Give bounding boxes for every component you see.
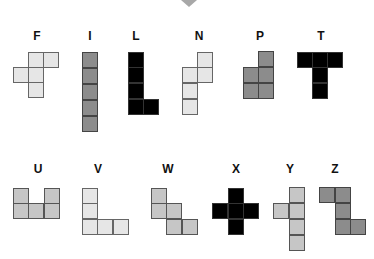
pentomino-cell (28, 203, 44, 219)
piece-label-l: L (132, 30, 139, 42)
pentomino-cell (228, 203, 244, 219)
pentomino-cell (113, 219, 129, 235)
pentomino-cell (228, 188, 244, 204)
pentomino-cell (82, 203, 98, 219)
pentomino-cell (28, 82, 44, 98)
pentomino-cell (243, 83, 259, 99)
pentomino-cell (182, 67, 198, 83)
piece-label-i: I (88, 30, 91, 42)
pentomino-cell (327, 52, 343, 68)
piece-label-f: F (33, 30, 40, 42)
piece-label-p: P (256, 30, 264, 42)
pentomino-cell (128, 52, 144, 68)
pentomino-cell (182, 219, 198, 235)
pentomino-cell (82, 188, 98, 204)
pentomino-cell (28, 67, 44, 83)
pentomino-cell (312, 67, 328, 83)
pentomino-cell (82, 116, 98, 132)
pentomino-cell (182, 99, 198, 115)
piece-label-n: N (195, 30, 204, 42)
pentomino-cell (335, 219, 351, 235)
pentomino-cell (335, 187, 351, 203)
triangle-down-icon (181, 0, 197, 7)
pentomino-cell (273, 203, 289, 219)
piece-label-t: T (317, 30, 324, 42)
pentomino-cell (197, 52, 213, 68)
pentomino-cell (82, 52, 98, 68)
pentomino-cell (13, 188, 29, 204)
pentomino-cell (128, 83, 144, 99)
piece-label-w: W (162, 163, 173, 175)
pentomino-cell (243, 203, 259, 219)
pentomino-cell (312, 83, 328, 99)
pentomino-cell (319, 187, 335, 203)
pentomino-cell (258, 51, 274, 67)
pentomino-cell (289, 203, 305, 219)
pentomino-cell (166, 203, 182, 219)
pentomino-cell (289, 187, 305, 203)
piece-label-v: V (94, 163, 102, 175)
piece-label-u: U (34, 163, 43, 175)
pentomino-cell (151, 188, 167, 204)
pentomino-cell (13, 67, 29, 83)
pentomino-cell (143, 99, 159, 115)
pentomino-cell (297, 52, 313, 68)
pentomino-cell (82, 219, 98, 235)
pentomino-cell (82, 100, 98, 116)
piece-label-y: Y (286, 163, 294, 175)
pentomino-cell (151, 203, 167, 219)
pentomino-cell (312, 52, 328, 68)
pentomino-cell (289, 235, 305, 251)
pentomino-cell (212, 203, 228, 219)
pentomino-cell (44, 188, 60, 204)
pentomino-cell (128, 67, 144, 83)
pentomino-cell (197, 67, 213, 83)
pentomino-cell (43, 52, 59, 68)
pentomino-cell (258, 83, 274, 99)
pentomino-cell (289, 219, 305, 235)
pentomino-cell (182, 83, 198, 99)
pentomino-cell (97, 219, 113, 235)
pentomino-cell (28, 52, 44, 68)
pentomino-cell (258, 67, 274, 83)
pentomino-cell (82, 84, 98, 100)
piece-label-x: X (232, 163, 240, 175)
pentomino-cell (350, 219, 366, 235)
piece-label-z: Z (331, 163, 338, 175)
pentomino-cell (166, 219, 182, 235)
pentomino-cell (335, 203, 351, 219)
pentomino-cell (243, 67, 259, 83)
pentomino-cell (44, 203, 60, 219)
pentomino-cell (228, 219, 244, 235)
pentomino-cell (13, 203, 29, 219)
pentomino-cell (82, 68, 98, 84)
pentomino-cell (128, 99, 144, 115)
